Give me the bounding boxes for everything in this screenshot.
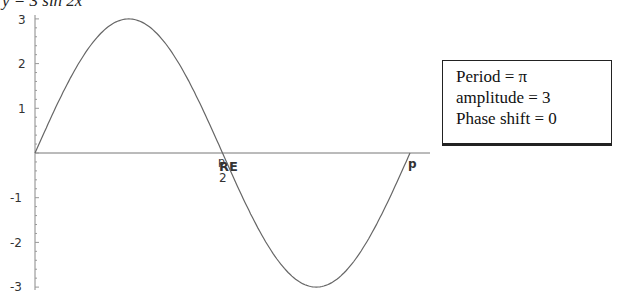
amplitude-label: amplitude = 3 — [456, 87, 611, 108]
period-label: Period = π — [456, 66, 611, 87]
phase-shift-label: Phase shift = 0 — [456, 108, 611, 129]
sine-plot: 3 2 1 -1 -2 -3 RE p 2 p — [0, 0, 617, 306]
x-tick-pi-half-den: 2 — [219, 171, 227, 185]
y-tick-neg2: -2 — [10, 236, 22, 250]
info-box: Period = π amplitude = 3 Phase shift = 0 — [442, 60, 612, 146]
y-tick-neg1: -1 — [10, 191, 22, 205]
x-tick-pi: p — [408, 157, 417, 171]
y-tick-3: 3 — [18, 13, 26, 27]
y-tick-neg3: -3 — [10, 280, 22, 294]
y-tick-1: 1 — [18, 102, 26, 116]
y-tick-2: 2 — [18, 57, 26, 71]
